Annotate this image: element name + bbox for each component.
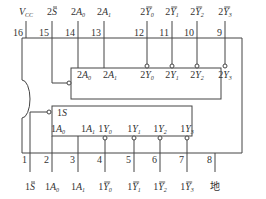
pin-number: 13	[91, 27, 101, 38]
svg-text:2Y1: 2Y1	[165, 6, 179, 18]
pin-label: 1Y2	[153, 181, 167, 193]
svg-text:2A1: 2A1	[97, 6, 111, 18]
pin-number: 3	[70, 154, 75, 165]
lower-output-label: 1Y0	[98, 123, 112, 135]
upper-input-label: 2A0	[77, 69, 91, 81]
ic-pinout-diagram: 16VCC152S142A0132A1122Y0112Y1102Y292Y311…	[0, 0, 266, 199]
svg-text:1Y1: 1Y1	[127, 123, 141, 135]
pin-number: 10	[184, 27, 194, 38]
pin-number: 14	[65, 27, 75, 38]
pin-15: 152S	[39, 6, 57, 38]
pin-2: 21A0	[44, 153, 59, 193]
svg-text:2A0: 2A0	[77, 69, 91, 81]
svg-text:2Y0: 2Y0	[140, 69, 154, 81]
pin-number: 1	[22, 154, 27, 165]
svg-text:1A1: 1A1	[71, 181, 85, 193]
svg-text:2Y3: 2Y3	[218, 69, 232, 81]
pin-12: 122Y0	[134, 6, 154, 38]
svg-text:2S: 2S	[47, 6, 57, 17]
svg-text:1Y3: 1Y3	[180, 181, 194, 193]
lower-input-label: 1A0	[51, 123, 65, 135]
lower-output-label: 1Y1	[127, 123, 141, 135]
pin-number: 2	[44, 154, 49, 165]
pin-label: 1S	[25, 181, 35, 192]
svg-text:VCC: VCC	[19, 6, 34, 18]
pin-label: 1Y3	[180, 181, 194, 193]
pin-3: 31A1	[70, 153, 85, 193]
upper-input-label: 2A1	[103, 69, 117, 81]
pin-7: 71Y3	[179, 153, 194, 193]
pin-number: 9	[217, 27, 222, 38]
svg-text:1Y2: 1Y2	[153, 123, 167, 135]
pin-label: 1Y1	[127, 181, 141, 193]
pin-label: 2Y3	[218, 6, 232, 18]
pin-number: 8	[207, 154, 212, 165]
pin-4: 41Y0	[97, 153, 112, 193]
pin-number: 11	[159, 27, 169, 38]
svg-text:1Y1: 1Y1	[127, 181, 141, 193]
pin-number: 6	[152, 154, 157, 165]
svg-text:2Y2: 2Y2	[190, 69, 204, 81]
lower-enable-label: 1S	[57, 107, 67, 118]
lower-decoder-block	[52, 106, 192, 136]
pin-label: 1Y0	[98, 181, 112, 193]
svg-text:1A1: 1A1	[81, 123, 95, 135]
svg-text:1Y2: 1Y2	[153, 181, 167, 193]
pin-6: 61Y2	[152, 153, 167, 193]
svg-text:1A0: 1A0	[45, 181, 59, 193]
svg-text:地: 地	[210, 180, 220, 192]
pin-9: 92Y3	[217, 6, 232, 38]
pin-13: 132A1	[91, 6, 111, 38]
svg-text:1A0: 1A0	[51, 123, 65, 135]
pin-number: 7	[179, 154, 184, 165]
upper-output-label: 2Y3	[218, 69, 232, 81]
svg-text:1Y0: 1Y0	[98, 181, 112, 193]
pin-1: 11S	[22, 153, 35, 192]
pin-10: 102Y2	[184, 6, 204, 38]
pin-label: 2Y0	[140, 6, 154, 18]
pin-number: 12	[134, 27, 144, 38]
svg-text:1S: 1S	[25, 181, 35, 192]
svg-text:2Y2: 2Y2	[190, 6, 204, 18]
pin-number: 4	[97, 154, 102, 165]
pin-14: 142A0	[65, 6, 85, 38]
pin-label: 2A1	[97, 6, 111, 18]
svg-text:1S: 1S	[57, 107, 67, 118]
pin-label: 2Y1	[165, 6, 179, 18]
lower-input-label: 1A1	[81, 123, 95, 135]
pin-label: VCC	[19, 6, 34, 18]
svg-text:2Y0: 2Y0	[140, 6, 154, 18]
pin-11: 112Y1	[159, 6, 178, 38]
svg-text:2A0: 2A0	[71, 6, 85, 18]
pin-label: 1A0	[45, 181, 59, 193]
svg-text:2Y3: 2Y3	[218, 6, 232, 18]
lower-output-label: 1Y2	[153, 123, 167, 135]
svg-text:2A1: 2A1	[103, 69, 117, 81]
pin-8: 8地	[207, 153, 220, 192]
pin-label: 2S	[47, 6, 57, 17]
pin-label: 地	[210, 180, 220, 192]
chip-notch	[22, 80, 30, 118]
upper-output-label: 2Y2	[190, 69, 204, 81]
svg-text:2Y1: 2Y1	[165, 69, 179, 81]
upper-output-label: 2Y1	[165, 69, 179, 81]
pin-label: 1A1	[71, 181, 85, 193]
pin-label: 2Y2	[190, 6, 204, 18]
pin-5: 51Y1	[126, 153, 141, 193]
pin-16: 16VCC	[13, 6, 34, 38]
pin-number: 16	[13, 27, 23, 38]
pin-label: 2A0	[71, 6, 85, 18]
pin-number: 5	[126, 154, 131, 165]
pin-number: 15	[39, 27, 49, 38]
upper-output-label: 2Y0	[140, 69, 154, 81]
svg-text:1Y0: 1Y0	[98, 123, 112, 135]
